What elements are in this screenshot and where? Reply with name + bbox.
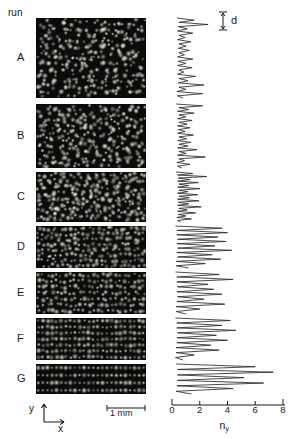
profile-curve xyxy=(175,272,233,314)
density-profile-g xyxy=(172,364,287,394)
x-axis-title: ny xyxy=(220,419,230,431)
profile-curve xyxy=(175,318,235,360)
run-label-e: E xyxy=(17,286,24,298)
particle-image-b xyxy=(36,104,146,168)
x-tick-label-8: 8 xyxy=(276,404,290,415)
profile-curve xyxy=(176,104,205,168)
profile-curve xyxy=(176,172,207,222)
density-profile-a xyxy=(172,18,287,98)
density-profile-c xyxy=(172,172,287,222)
run-label-g: G xyxy=(17,372,26,384)
particle-image-d xyxy=(36,226,146,268)
profile-curve xyxy=(177,18,208,98)
density-profile-b xyxy=(172,104,287,168)
x-tick-label-0: 0 xyxy=(165,404,179,415)
scale-bar-label: 1 mm xyxy=(110,408,133,418)
orientation-label-x: x xyxy=(58,423,63,434)
orientation-label-y: y xyxy=(29,403,34,414)
run-label-f: F xyxy=(17,332,24,344)
run-label-b: B xyxy=(17,129,24,141)
x-tick-label-2: 2 xyxy=(193,404,207,415)
particle-image-c xyxy=(36,172,146,222)
x-axis-title-subscript: y xyxy=(225,424,229,433)
density-profile-d xyxy=(172,226,287,268)
profile-curve xyxy=(176,364,273,394)
run-label-a: A xyxy=(17,51,24,63)
density-profile-f xyxy=(172,318,287,360)
xy-orientation-indicator xyxy=(40,400,70,430)
profile-curve xyxy=(175,226,231,268)
run-label-c: C xyxy=(17,190,25,202)
run-column-header: run xyxy=(8,8,22,18)
density-profile-e xyxy=(172,272,287,314)
particle-image-g xyxy=(36,364,146,394)
particle-image-e xyxy=(36,272,146,314)
figure-root: run d ABCDEFG 02468 ny 1 mm y x xyxy=(0,0,291,439)
run-label-d: D xyxy=(17,240,25,252)
particle-image-f xyxy=(36,318,146,360)
x-tick-label-4: 4 xyxy=(221,404,235,415)
particle-image-a xyxy=(36,18,146,98)
x-tick-label-6: 6 xyxy=(248,404,262,415)
